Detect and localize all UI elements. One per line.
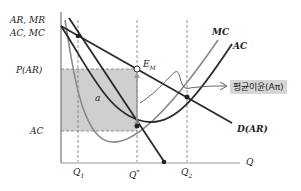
y-axis-label-top: AR, MR bbox=[10, 15, 45, 25]
ac-curve-label: AC bbox=[233, 41, 247, 51]
mr-ac-intersection-point bbox=[76, 34, 81, 39]
equilibrium-label: EM bbox=[143, 59, 156, 73]
monopolistic-competition-diagram bbox=[0, 0, 301, 191]
mc-curve-label: MC bbox=[212, 27, 229, 37]
ar-ac-intersection-point bbox=[185, 95, 190, 100]
mr-mc-intersection-point bbox=[135, 124, 140, 129]
area-label: a bbox=[95, 93, 100, 103]
average-profit-label: 평균이윤(Aπ) bbox=[230, 80, 287, 94]
q2-tick-label: Q2 bbox=[181, 167, 192, 181]
price-tick-label: P(AR) bbox=[16, 65, 42, 75]
x-axis-label: Q bbox=[246, 157, 253, 167]
y-axis-label-bottom: AC, MC bbox=[10, 28, 45, 38]
qstar-tick-label: Q* bbox=[129, 167, 139, 180]
equilibrium-point bbox=[134, 66, 140, 72]
ac-tick-label: AC bbox=[30, 126, 43, 136]
q1-tick-label: Q1 bbox=[73, 167, 84, 181]
mr-zero-point bbox=[162, 160, 167, 165]
demand-curve-label: D(AR) bbox=[237, 124, 268, 134]
